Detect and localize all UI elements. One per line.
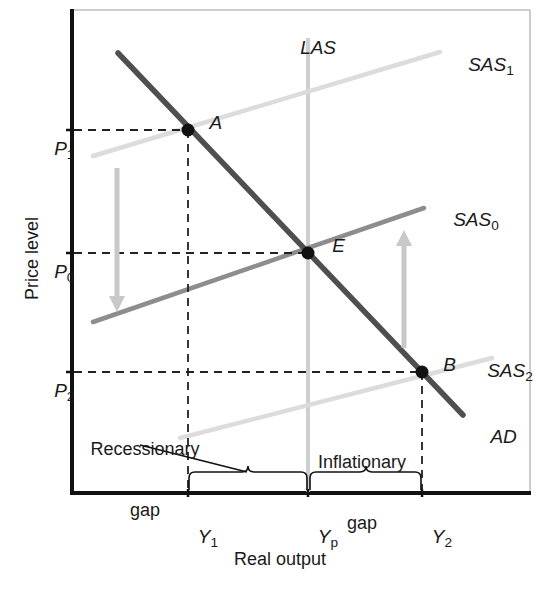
y-tick-p1-sub: 1 bbox=[67, 147, 75, 162]
point-label-e: E bbox=[311, 214, 345, 278]
curve-label-sas2-text: SAS bbox=[487, 360, 525, 381]
downward-price-adjustment-arrow bbox=[109, 168, 125, 312]
point-label-a-text: A bbox=[209, 112, 222, 133]
x-tick-y2-main: Y bbox=[432, 526, 445, 547]
y-tick-p2-main: P bbox=[54, 380, 67, 401]
curve-label-sas1-sub: 1 bbox=[506, 63, 514, 78]
inflationary-gap-line2: gap bbox=[303, 513, 421, 533]
y-tick-label-p2: P2 bbox=[33, 359, 74, 426]
curve-label-las-text: LAS bbox=[300, 37, 336, 58]
curve-label-ad-text: AD bbox=[490, 426, 516, 447]
y-tick-p0-main: P bbox=[54, 261, 67, 282]
curve-label-sas2-sub: 2 bbox=[525, 369, 533, 384]
y-axis-title: Price level bbox=[22, 217, 42, 300]
point-label-a: A bbox=[189, 91, 222, 155]
curve-label-sas2: SAS2 bbox=[466, 339, 533, 406]
curve-label-sas0-sub: 0 bbox=[491, 218, 499, 233]
point-label-b-text: B bbox=[443, 354, 456, 375]
ad-as-diagram: LAS SAS1 SAS0 SAS2 AD A E B P1 P0 P2 Y1 … bbox=[0, 0, 543, 589]
curve-label-sas0: SAS0 bbox=[432, 188, 499, 255]
point-label-e-text: E bbox=[332, 235, 345, 256]
y-tick-label-p1: P1 bbox=[33, 117, 74, 184]
curve-label-ad: AD bbox=[470, 405, 517, 469]
y-tick-p0-sub: 0 bbox=[67, 270, 75, 285]
inflationary-gap-line1: Inflationary bbox=[303, 452, 421, 472]
recessionary-gap-line2: gap bbox=[70, 500, 220, 520]
ad-curve bbox=[118, 53, 463, 415]
inflationary-gap-label: Inflationary gap bbox=[303, 412, 421, 573]
curve-label-sas1-text: SAS bbox=[468, 54, 506, 75]
curve-label-las: LAS bbox=[279, 16, 336, 80]
y-tick-p1-main: P bbox=[54, 138, 67, 159]
sas1-curve bbox=[93, 52, 440, 156]
upward-price-adjustment-arrow bbox=[396, 230, 412, 348]
sas0-curve bbox=[93, 208, 424, 322]
recessionary-gap-line1: Recessionary bbox=[70, 439, 220, 459]
curve-label-sas0-text: SAS bbox=[453, 209, 491, 230]
curve-label-sas1: SAS1 bbox=[447, 33, 514, 100]
point-label-b: B bbox=[422, 333, 456, 397]
recessionary-gap-label: Recessionary gap bbox=[70, 399, 220, 560]
x-tick-y2-sub: 2 bbox=[444, 535, 452, 550]
